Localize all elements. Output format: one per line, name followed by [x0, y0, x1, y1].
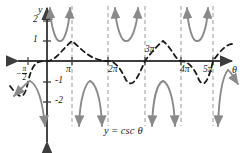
- csc-branch-1-right: [60, 8, 70, 41]
- sine-reference-curve: [10, 41, 232, 96]
- csc-branch-neg3-right: [163, 81, 175, 126]
- csc-branch-2-left: [115, 8, 126, 41]
- csc-branch-neg4-left: [218, 70, 228, 126]
- csc-branch-neg3-left: [152, 81, 163, 126]
- equation-rhs: csc θ: [121, 125, 143, 136]
- x-axis-label: θ: [232, 65, 237, 75]
- x-tick-label-5pi: 5π: [203, 65, 213, 75]
- x-tick-label-3pi: 3π: [145, 45, 155, 55]
- y-tick-label-neg1: -1: [55, 76, 63, 86]
- minus-sign: −: [16, 69, 21, 78]
- csc-branch-1-left: [50, 8, 60, 41]
- equation-caption: y = csc θ: [104, 126, 143, 137]
- y-tick-label-neg2: -2: [55, 96, 63, 106]
- csc-branch-neg2-right: [90, 81, 102, 126]
- csc-graph-figure: y θ 2 1 -1 -2 − π 2 π 2π 3π 4π 5π y = cs…: [0, 0, 246, 153]
- csc-branch-neg2-left: [79, 81, 90, 126]
- fraction-denominator: 2: [22, 74, 28, 82]
- equation-equals: =: [112, 125, 118, 136]
- y-tick-label-1: 1: [33, 35, 38, 45]
- csc-branch-3-left: [187, 8, 197, 41]
- x-tick-label-pi: π: [66, 65, 71, 75]
- x-tick-label-2pi: 2π: [108, 65, 118, 75]
- y-tick-label-2: 2: [33, 15, 38, 25]
- csc-branch-3-right: [197, 8, 208, 41]
- fraction-pi-over-2: π 2: [22, 65, 28, 82]
- x-tick-label-neg-half-pi: − π 2: [16, 64, 27, 82]
- csc-branch-neg1-right: [30, 81, 45, 126]
- x-tick-label-4pi: 4π: [180, 65, 190, 75]
- axes: [18, 8, 232, 142]
- csc-branch-neg1-left: [14, 81, 30, 96]
- csc-branch-2-right: [126, 8, 138, 41]
- y-axis-label: y: [38, 5, 42, 15]
- equation-lhs: y: [104, 125, 109, 136]
